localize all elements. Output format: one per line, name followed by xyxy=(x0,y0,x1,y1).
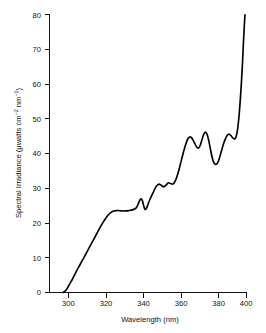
y-tick-label-60: 60 xyxy=(33,80,41,89)
y-tick-label-20: 20 xyxy=(33,219,41,228)
y-tick-label-70: 70 xyxy=(33,45,41,54)
y-axis-title-mid: nm xyxy=(14,97,23,110)
x-tick-label-320: 320 xyxy=(100,299,113,308)
x-axis-ticks: 300 320 340 360 380 400 xyxy=(62,293,252,309)
x-tick-label-380: 380 xyxy=(212,299,225,308)
x-tick-label-400: 400 xyxy=(240,299,253,308)
y-tick-label-30: 30 xyxy=(33,184,41,193)
x-axis-title: Wavelength (nm) xyxy=(121,315,179,324)
y-axis-ticks: 0 10 20 30 40 50 60 70 80 xyxy=(33,11,50,298)
y-axis-title-main: Spectral Irradiance ( xyxy=(14,149,23,218)
y-tick-label-10: 10 xyxy=(33,254,41,263)
y-axis-title: Spectral Irradiance (μwatts cm−2 nm−1) xyxy=(13,87,23,218)
figure-container: 0 10 20 30 40 50 60 70 80 300 320 340 36… xyxy=(0,0,266,333)
spectral-irradiance-curve xyxy=(63,15,245,293)
y-tick-label-40: 40 xyxy=(33,149,41,158)
x-tick-label-300: 300 xyxy=(62,299,75,308)
y-axis-title-close: ) xyxy=(14,87,23,90)
spectral-irradiance-chart: 0 10 20 30 40 50 60 70 80 300 320 340 36… xyxy=(0,0,266,333)
y-tick-label-80: 80 xyxy=(33,11,41,20)
x-tick-label-360: 360 xyxy=(175,299,188,308)
y-axis-title-units: μwatts cm xyxy=(14,115,23,149)
y-tick-label-50: 50 xyxy=(33,115,41,124)
axes-frame xyxy=(50,15,247,293)
y-tick-label-0: 0 xyxy=(37,288,41,297)
x-tick-label-340: 340 xyxy=(137,299,150,308)
